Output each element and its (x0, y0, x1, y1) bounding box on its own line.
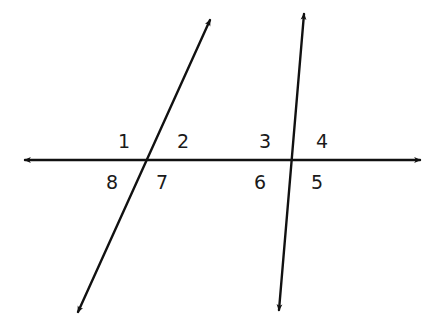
right-transversal-line (279, 14, 304, 310)
angle-label-4: 4 (316, 130, 328, 152)
angle-label-5: 5 (311, 171, 323, 193)
angle-label-1: 1 (118, 130, 130, 152)
left-transversal-line (78, 20, 210, 312)
angle-label-8: 8 (106, 171, 118, 193)
angle-label-7: 7 (156, 171, 168, 193)
angle-label-3: 3 (259, 130, 271, 152)
angle-label-6: 6 (254, 171, 266, 193)
angle-label-2: 2 (177, 130, 189, 152)
transversal-diagram: 1 2 3 4 5 6 7 8 (0, 0, 431, 325)
